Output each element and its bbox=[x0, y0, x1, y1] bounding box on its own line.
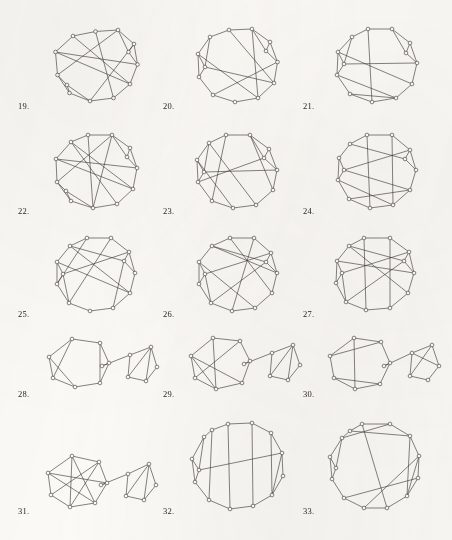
graph-figure-21 bbox=[322, 22, 430, 118]
graph-edge bbox=[70, 503, 95, 507]
graph-edge bbox=[244, 353, 272, 364]
graph-edge bbox=[270, 376, 288, 380]
graph-vertex bbox=[250, 421, 254, 425]
graph-edges bbox=[48, 456, 156, 507]
graph-vertex bbox=[133, 271, 137, 275]
graph-vertex bbox=[342, 168, 346, 172]
graph-edge bbox=[255, 293, 272, 308]
graph-edge bbox=[117, 189, 133, 204]
graph-vertex bbox=[362, 236, 366, 240]
graph-edge bbox=[271, 433, 272, 495]
graph-vertex bbox=[350, 35, 354, 39]
graph-vertex bbox=[128, 353, 132, 357]
graph-vertex bbox=[68, 244, 72, 248]
graph-vertex bbox=[270, 351, 274, 355]
graph-edge bbox=[212, 238, 230, 246]
graph-vertex bbox=[388, 236, 392, 240]
graph-vertex bbox=[228, 236, 232, 240]
graph-vertex bbox=[189, 354, 193, 358]
graph-vertex bbox=[197, 468, 201, 472]
graph-edge bbox=[113, 293, 130, 308]
graph-edge bbox=[235, 98, 258, 102]
graph-vertex bbox=[70, 337, 74, 341]
graph-edge bbox=[72, 456, 99, 462]
graph-vertex bbox=[193, 376, 197, 380]
graph-vertex bbox=[252, 236, 256, 240]
graph-vertex bbox=[46, 471, 50, 475]
graph-vertex bbox=[207, 498, 211, 502]
graph-vertex bbox=[417, 454, 421, 458]
graph-edge bbox=[367, 135, 370, 208]
graph-edge bbox=[392, 135, 410, 150]
graph-drawing bbox=[180, 333, 304, 399]
graph-vertex bbox=[276, 60, 280, 64]
graph-vertex bbox=[370, 100, 374, 104]
graph-vertex bbox=[226, 422, 230, 426]
graph-vertex bbox=[405, 494, 409, 498]
graph-vertex bbox=[207, 141, 211, 145]
graph-edge bbox=[71, 142, 117, 204]
graph-vertex bbox=[253, 306, 257, 310]
graph-vertex bbox=[248, 133, 252, 137]
graph-vertex bbox=[264, 260, 268, 264]
graph-vertex bbox=[414, 168, 418, 172]
graph-edge bbox=[412, 353, 439, 366]
graph-edge bbox=[49, 357, 75, 387]
graph-edge bbox=[392, 29, 406, 53]
graph-edge bbox=[392, 29, 410, 43]
graph-edge bbox=[266, 51, 278, 62]
graph-edge bbox=[272, 453, 282, 495]
graph-edge bbox=[209, 135, 226, 143]
graph-edge bbox=[355, 384, 380, 389]
graph-vertex bbox=[408, 41, 412, 45]
graph-vertex bbox=[196, 52, 200, 56]
graph-edge bbox=[212, 424, 228, 430]
graph-edges bbox=[57, 238, 135, 311]
graph-vertices bbox=[196, 27, 279, 104]
graph-edge bbox=[57, 262, 130, 293]
graph-vertex bbox=[408, 434, 412, 438]
graph-vertex bbox=[347, 197, 351, 201]
graph-vertex bbox=[128, 82, 132, 86]
graph-edge bbox=[213, 338, 216, 389]
graph-vertex bbox=[55, 180, 59, 184]
graph-vertex bbox=[112, 96, 116, 100]
graph-vertex bbox=[196, 180, 200, 184]
graph-vertex bbox=[51, 376, 55, 380]
graph-vertex bbox=[365, 133, 369, 137]
graph-vertex bbox=[210, 428, 214, 432]
graph-vertices bbox=[54, 133, 139, 210]
graph-vertex bbox=[250, 27, 254, 31]
graph-vertex bbox=[197, 260, 201, 264]
graph-edge bbox=[344, 63, 417, 64]
graph-edge bbox=[213, 338, 240, 341]
graph-vertex bbox=[116, 28, 120, 32]
graph-vertex bbox=[408, 188, 412, 192]
graph-vertex bbox=[342, 62, 346, 66]
graph-edge bbox=[232, 308, 255, 311]
figure-number-label: 28. bbox=[18, 389, 29, 399]
graph-edge bbox=[352, 29, 368, 37]
graph-edge bbox=[273, 170, 277, 190]
graph-edge bbox=[252, 423, 271, 433]
graph-vertex bbox=[126, 375, 130, 379]
graph-figure-31 bbox=[36, 450, 160, 516]
exercise-page: 19.20.21.22.23.24.25.26.27.28.29.30.31.3… bbox=[0, 0, 452, 540]
graph-vertex bbox=[348, 92, 352, 96]
graph-edge bbox=[197, 160, 198, 182]
graph-edge bbox=[198, 37, 210, 54]
graph-vertex bbox=[291, 343, 295, 347]
graph-vertex bbox=[67, 301, 71, 305]
graph-vertex bbox=[124, 494, 128, 498]
graph-vertex bbox=[109, 236, 113, 240]
graph-drawing bbox=[322, 128, 430, 224]
graph-edge bbox=[198, 54, 205, 67]
figure-number-label: 21. bbox=[303, 101, 314, 111]
graph-edge bbox=[198, 54, 258, 98]
graph-vertex bbox=[408, 374, 412, 378]
graph-edge bbox=[204, 170, 277, 172]
graph-edge bbox=[130, 148, 137, 168]
figure-number-label: 20. bbox=[163, 101, 174, 111]
graph-vertex bbox=[233, 100, 237, 104]
graph-edge bbox=[387, 496, 407, 508]
